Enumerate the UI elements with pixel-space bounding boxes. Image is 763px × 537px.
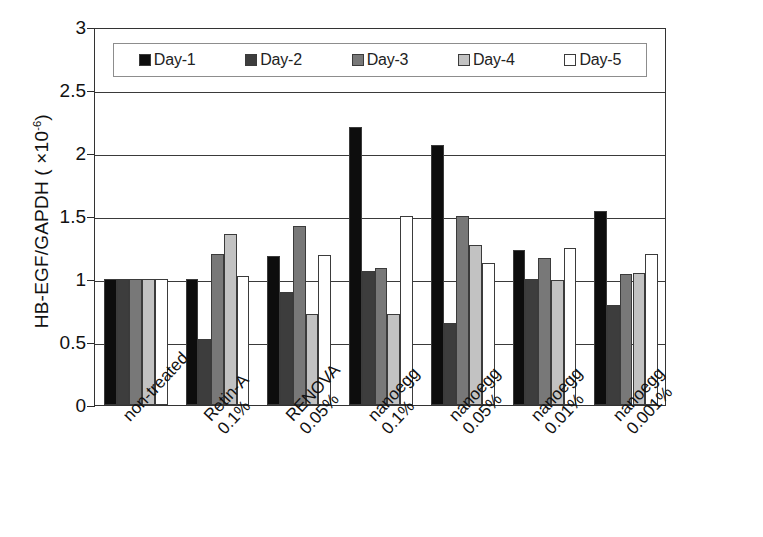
bar-chart-figure: HB-EGF/GAPDH ( ×10-6) 00.511.522.53 Day-… xyxy=(0,0,763,537)
y-axis-ticklabel: 2 xyxy=(48,143,86,165)
legend-swatch-icon xyxy=(458,54,470,66)
y-axis-ticklabel: 2.5 xyxy=(48,80,86,102)
x-axis-ticklabels: non-treatedRetin-A0.1%RENOVA0.05%nanoegg… xyxy=(94,406,666,537)
y-axis-ticklabel: 0 xyxy=(48,395,86,417)
legend-swatch-icon xyxy=(245,54,257,66)
bar-group xyxy=(95,29,177,405)
y-axis-ticklabel: 3 xyxy=(48,17,86,39)
y-axis-ticklabel: 0.5 xyxy=(48,332,86,354)
legend-swatch-icon xyxy=(139,54,151,66)
legend-entry[interactable]: Day-1 xyxy=(139,51,196,69)
legend-label: Day-3 xyxy=(367,51,409,69)
legend-label: Day-5 xyxy=(579,51,621,69)
bar[interactable] xyxy=(129,279,142,405)
legend-swatch-icon xyxy=(352,54,364,66)
y-axis-ticklabel: 1.5 xyxy=(48,206,86,228)
bar[interactable] xyxy=(117,279,130,405)
legend-swatch-icon xyxy=(564,54,576,66)
y-axis-ticklabels: 00.511.522.53 xyxy=(42,0,86,537)
legend-label: Day-1 xyxy=(154,51,196,69)
legend-entry[interactable]: Day-5 xyxy=(564,51,621,69)
legend-entry[interactable]: Day-4 xyxy=(458,51,515,69)
legend-label: Day-2 xyxy=(260,51,302,69)
legend: Day-1Day-2Day-3Day-4Day-5 xyxy=(113,43,647,77)
legend-label: Day-4 xyxy=(473,51,515,69)
legend-entry[interactable]: Day-2 xyxy=(245,51,302,69)
y-axis-ticklabel: 1 xyxy=(48,269,86,291)
bar[interactable] xyxy=(104,279,117,405)
legend-entry[interactable]: Day-3 xyxy=(352,51,409,69)
